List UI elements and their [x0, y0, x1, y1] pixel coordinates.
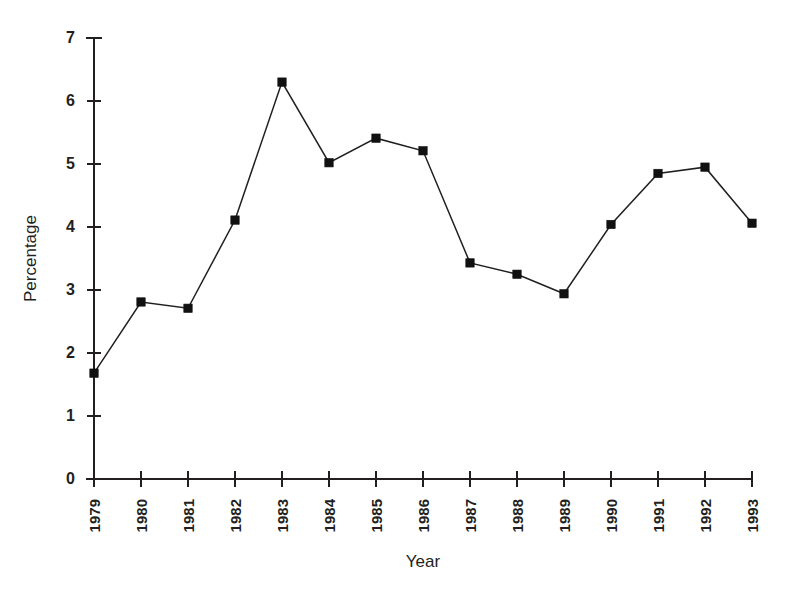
data-point-marker	[90, 369, 98, 377]
x-axis-title: Year	[406, 552, 441, 571]
x-tick-label: 1987	[462, 499, 479, 532]
data-point-marker	[278, 78, 286, 86]
x-tick-label: 1983	[274, 499, 291, 532]
x-tick-label: 1992	[697, 499, 714, 532]
data-point-marker	[560, 290, 568, 298]
data-point-marker	[137, 298, 145, 306]
y-tick-label: 1	[66, 407, 75, 424]
data-point-marker	[325, 159, 333, 167]
data-point-markers	[90, 78, 756, 377]
y-axis-tick-labels: 01234567	[66, 29, 75, 487]
data-point-marker	[701, 163, 709, 171]
data-point-marker	[513, 270, 521, 278]
x-axis-tick-labels: 1979198019811982198319841985198619871988…	[86, 498, 761, 532]
x-tick-label: 1988	[509, 499, 526, 532]
y-tick-label: 4	[66, 218, 75, 235]
x-tick-label: 1985	[368, 499, 385, 532]
data-point-marker	[184, 304, 192, 312]
x-tick-label: 1984	[321, 498, 338, 532]
x-tick-label: 1981	[180, 499, 197, 532]
y-tick-label: 7	[66, 29, 75, 46]
x-tick-label: 1980	[133, 499, 150, 532]
x-tick-label: 1986	[415, 499, 432, 532]
data-point-marker	[654, 169, 662, 177]
chart-canvas: 01234567 1979198019811982198319841985198…	[0, 0, 792, 591]
x-tick-label: 1990	[603, 499, 620, 532]
y-tick-label: 6	[66, 92, 75, 109]
x-tick-label: 1991	[650, 499, 667, 532]
y-tick-label: 5	[66, 155, 75, 172]
data-point-marker	[466, 259, 474, 267]
x-tick-label: 1989	[556, 499, 573, 532]
x-tick-label: 1982	[227, 499, 244, 532]
y-tick-label: 2	[66, 344, 75, 361]
data-point-marker	[607, 220, 615, 228]
data-point-marker	[419, 147, 427, 155]
y-tick-label: 0	[66, 470, 75, 487]
x-tick-label: 1979	[86, 499, 103, 532]
data-point-marker	[372, 134, 380, 142]
line-chart: 01234567 1979198019811982198319841985198…	[0, 0, 792, 591]
data-point-marker	[748, 219, 756, 227]
data-point-marker	[231, 216, 239, 224]
y-tick-label: 3	[66, 281, 75, 298]
series-polyline	[94, 82, 752, 373]
y-axis-title: Percentage	[21, 215, 40, 302]
axes	[94, 38, 752, 479]
x-tick-label: 1993	[744, 499, 761, 532]
data-series-line	[94, 82, 752, 373]
